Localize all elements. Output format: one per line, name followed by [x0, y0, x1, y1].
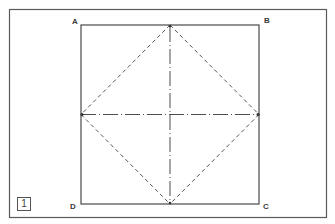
fold-line-top-left: [81, 25, 170, 115]
center-crease-lines: [81, 27, 259, 204]
midpoint-left: [81, 113, 84, 116]
corner-label-d: D: [70, 203, 76, 211]
step-number-badge: 1: [17, 197, 31, 211]
fold-line-bottom-left: [81, 115, 170, 205]
midpoint-right: [257, 113, 260, 116]
corner-label-b: B: [264, 17, 270, 25]
fold-diagram: [0, 0, 335, 224]
midpoint-bottom: [169, 202, 172, 205]
midpoint-top: [169, 25, 172, 28]
corner-label-a: A: [72, 18, 78, 26]
fold-line-bottom-right: [170, 115, 259, 205]
corner-label-c: C: [263, 203, 269, 211]
outer-frame: [10, 10, 327, 218]
fold-line-top-right: [170, 25, 259, 115]
